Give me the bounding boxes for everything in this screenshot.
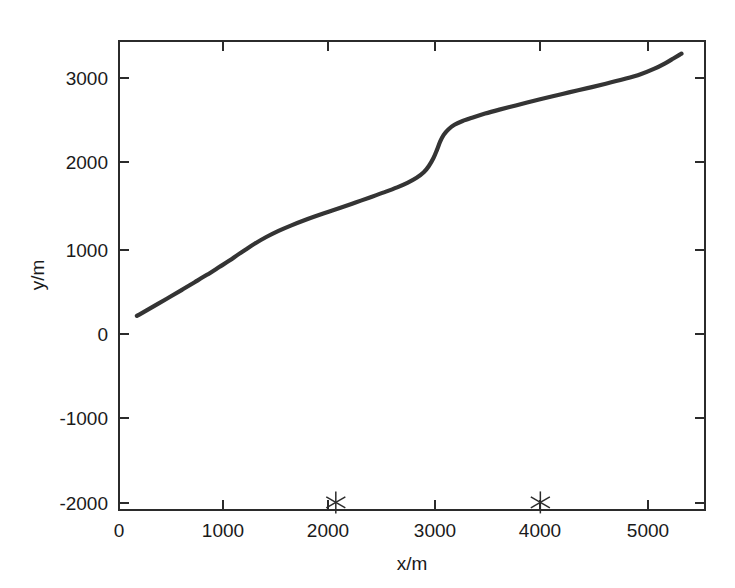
x-tick-label-3000: 3000 bbox=[414, 520, 456, 541]
x-tick-label-2000: 2000 bbox=[307, 520, 349, 541]
y-axis-title: y/m bbox=[27, 260, 48, 291]
plot-svg: 3000 2000 1000 0 -1000 -2000 0 1000 2000… bbox=[0, 0, 735, 588]
y-tick-label-1000: 1000 bbox=[66, 240, 108, 261]
y-tick-label-3000: 3000 bbox=[66, 68, 108, 89]
x-axis-title: x/m bbox=[397, 553, 428, 574]
y-tick-label-2000: 2000 bbox=[66, 152, 108, 173]
x-tick-label-5000: 5000 bbox=[627, 520, 669, 541]
figure-background bbox=[0, 0, 735, 588]
x-tick-label-1000: 1000 bbox=[202, 520, 244, 541]
y-tick-label-neg2000: -2000 bbox=[59, 493, 108, 514]
x-tick-label-0: 0 bbox=[114, 520, 125, 541]
y-tick-label-0: 0 bbox=[97, 324, 108, 345]
y-tick-label-neg1000: -1000 bbox=[59, 408, 108, 429]
x-tick-label-4000: 4000 bbox=[519, 520, 561, 541]
